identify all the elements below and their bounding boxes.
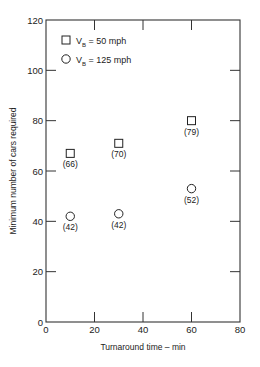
legend: VB = 50 mph VB = 125 mph	[62, 36, 132, 67]
x-tick-label: 40	[138, 324, 149, 335]
circle-marker	[66, 212, 74, 220]
data-point-label: (70)	[111, 149, 126, 159]
square-marker	[115, 139, 123, 147]
y-tick-label: 20	[32, 266, 43, 277]
plot-border	[46, 20, 240, 322]
square-marker	[188, 117, 196, 125]
y-tick-label: 80	[32, 115, 43, 126]
y-tick-label: 100	[27, 65, 43, 76]
data-point-label: (42)	[63, 222, 78, 232]
plot-frame	[46, 20, 240, 322]
circle-marker	[115, 210, 123, 218]
axis-ticks: 020406080020406080100120	[27, 15, 245, 336]
data-points: (66)(70)(79)(42)(42)(52)	[63, 117, 200, 233]
x-tick-label: 60	[186, 324, 197, 335]
legend-item-50mph: VB = 50 mph	[76, 36, 126, 48]
legend-circle-marker	[62, 55, 70, 63]
y-tick-label: 60	[32, 166, 43, 177]
y-tick-label: 120	[27, 15, 43, 26]
data-point-label: (79)	[184, 127, 199, 137]
square-marker	[66, 149, 74, 157]
data-point-label: (52)	[184, 195, 199, 205]
y-axis-label: Minimum number of cars required	[8, 107, 18, 234]
x-tick-label: 0	[43, 324, 48, 335]
x-axis-label: Turnaround time – min	[100, 342, 185, 352]
y-tick-label: 0	[38, 317, 43, 328]
y-tick-label: 40	[32, 216, 43, 227]
x-tick-label: 20	[89, 324, 100, 335]
x-tick-label: 80	[235, 324, 246, 335]
data-point-label: (42)	[111, 220, 126, 230]
circle-marker	[187, 184, 195, 192]
data-point-label: (66)	[63, 159, 78, 169]
legend-square-marker	[62, 36, 70, 44]
scatter-chart: 020406080020406080100120 (66)(70)(79)(42…	[0, 0, 260, 367]
legend-item-125mph: VB = 125 mph	[76, 55, 131, 67]
